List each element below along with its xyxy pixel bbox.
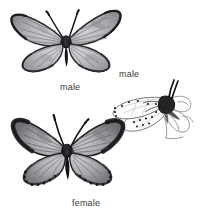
forewing-right <box>71 120 123 156</box>
hindwing-right <box>69 44 109 71</box>
label-female-upperside: female <box>72 198 100 208</box>
hindwing-left <box>23 44 63 71</box>
label-male-underside: male <box>119 69 139 79</box>
illustration-plate: male <box>0 0 204 215</box>
figure-female-upperside <box>8 104 130 196</box>
label-male-upperside: male <box>60 82 80 92</box>
antenna-group-underside <box>169 80 178 98</box>
female-upperside-drawing <box>8 104 130 196</box>
forewing-right <box>70 11 121 45</box>
forewing-left <box>11 15 62 46</box>
male-upperside-drawing <box>8 4 124 82</box>
forewing-left <box>13 120 63 156</box>
hindwing-right <box>70 153 112 186</box>
hindwing-left <box>23 153 65 186</box>
figure-male-upperside <box>8 4 124 82</box>
